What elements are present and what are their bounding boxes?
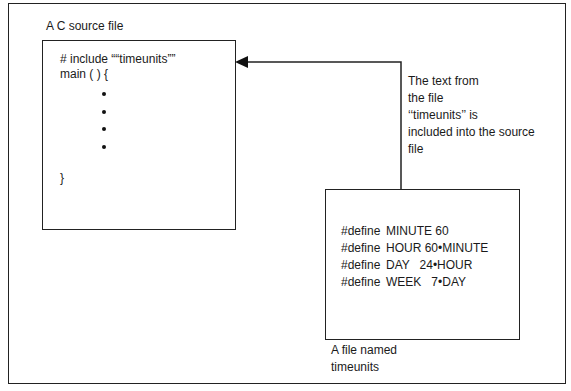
define-line: #defineDAY 24•HOUR [341, 258, 488, 275]
define-line: #defineWEEK 7•DAY [341, 275, 488, 292]
define-line: #defineMINUTE 60 [341, 224, 488, 241]
define-line: #defineHOUR 60•MINUTE [341, 241, 488, 258]
header-file-caption: A file named [331, 342, 397, 359]
define-list: #defineMINUTE 60 #defineHOUR 60•MINUTE #… [341, 224, 488, 292]
annotation-text: The text from the file ‘‘timeunits’’ is … [408, 73, 535, 158]
header-file-caption: timeunits [331, 359, 379, 376]
